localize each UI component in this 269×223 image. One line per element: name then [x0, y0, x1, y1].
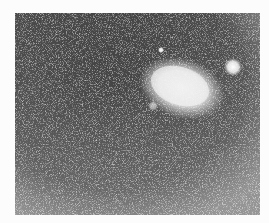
photo-canvas: [15, 13, 260, 215]
astronomical-photo: Grainy monochrome astronomical photograp…: [15, 13, 260, 215]
